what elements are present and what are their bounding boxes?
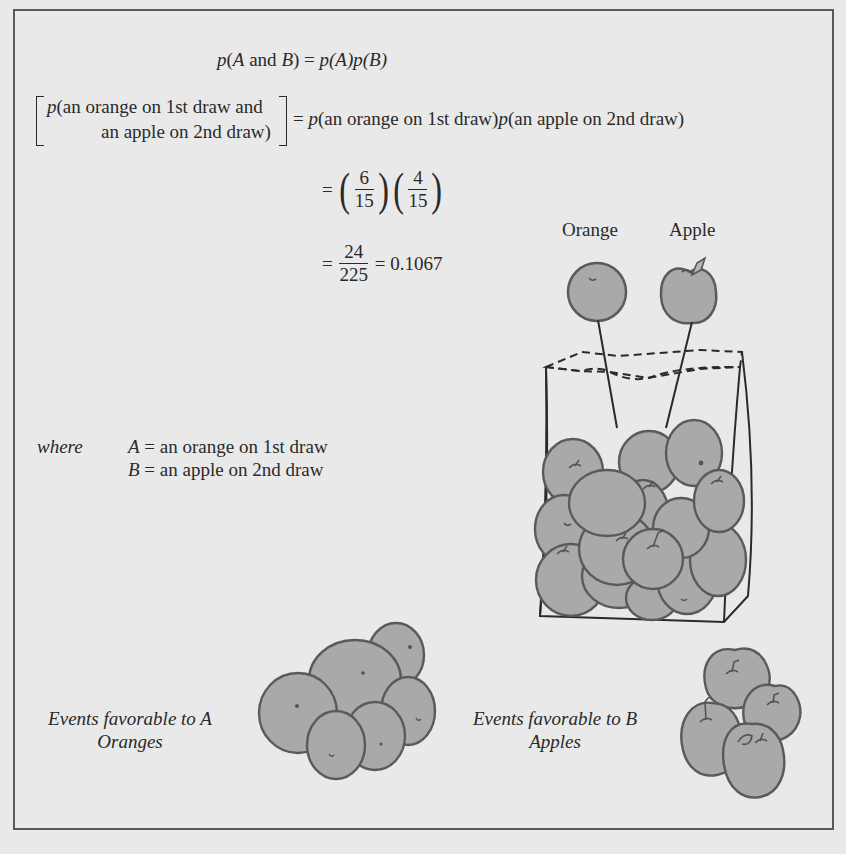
drawn-orange-icon xyxy=(568,263,626,428)
drawn-apple-icon xyxy=(661,258,716,428)
fruit-illustration xyxy=(0,0,846,854)
apples-pile-icon xyxy=(681,649,800,798)
bag-fruit-group xyxy=(535,420,746,620)
